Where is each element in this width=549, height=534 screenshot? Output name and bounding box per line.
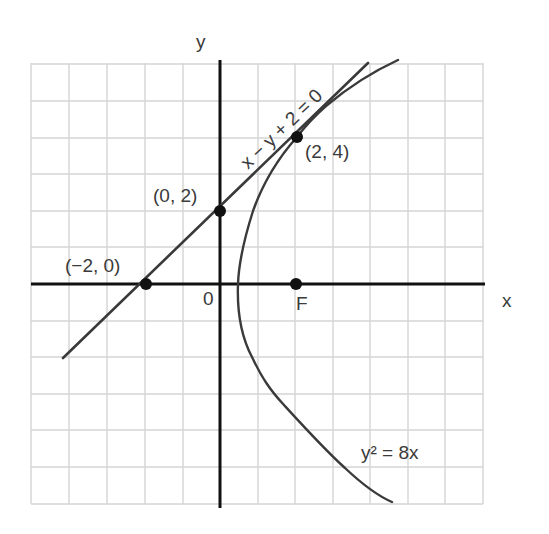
point-label-2-4: (2, 4) [305,141,349,162]
point-label-0-2: (0, 2) [153,185,197,206]
focus-label: F [296,293,308,314]
x-axis-label: x [502,290,512,311]
parabola-curve [238,60,398,502]
parabola-tangent-diagram: y x 0 (−2, 0) (0, 2) (2, 4) F x − y + 2 … [0,0,549,534]
point-label-neg2-0: (−2, 0) [65,255,120,276]
point-2-4 [291,131,303,143]
point-neg2-0 [140,278,152,290]
origin-label: 0 [203,288,214,309]
y-axis-label: y [196,31,206,52]
point-0-2 [214,205,226,217]
point-focus [290,278,302,290]
parabola-equation-label: y² = 8x [361,442,419,463]
